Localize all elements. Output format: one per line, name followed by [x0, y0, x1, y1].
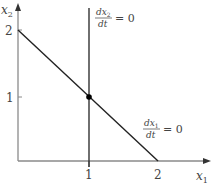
x-tick-label-2: 2 — [154, 168, 162, 182]
svg-text:dt: dt — [146, 130, 156, 140]
x-axis-label: x1 — [196, 169, 208, 184]
svg-text:dx2: dx2 — [96, 7, 111, 18]
equilibrium-point — [86, 94, 92, 100]
x-axis-arrow-icon — [203, 158, 211, 164]
svg-text:= 0: = 0 — [163, 123, 183, 136]
y-tick-label-1: 1 — [6, 91, 14, 105]
svg-text:= 0: = 0 — [115, 12, 135, 25]
x-tick-label-1: 1 — [85, 168, 93, 182]
y-tick-label-2: 2 — [5, 24, 13, 38]
y-axis-arrow-icon — [15, 3, 21, 11]
y-axis-label: x2 — [1, 3, 13, 19]
nullcline-dx2dt-label: dx2 dt = 0 — [95, 7, 135, 29]
nullcline-dx1dt-label: dx1 dt = 0 — [143, 118, 183, 140]
svg-text:dx1: dx1 — [144, 118, 159, 129]
phase-plane-diagram: x2 x1 2 1 1 2 dx2 dt = 0 dx1 dt = 0 — [0, 0, 215, 184]
svg-text:dt: dt — [98, 19, 108, 29]
